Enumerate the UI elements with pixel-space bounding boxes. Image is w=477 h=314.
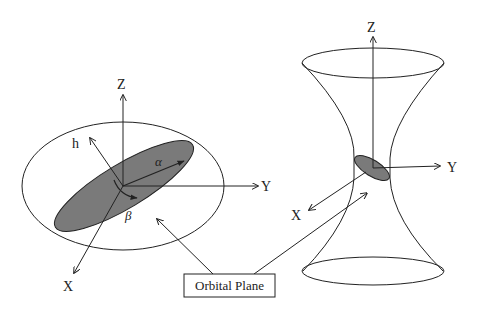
orbital-plane-diagram: Z Y X h α β Z Y X Orbital Plane xyxy=(0,0,477,314)
right-panel: Z Y X xyxy=(291,20,457,285)
z-axis-label: Z xyxy=(117,77,126,92)
callout-label: Orbital Plane xyxy=(195,278,264,293)
alpha-label: α xyxy=(155,154,163,169)
x-axis-right-label: X xyxy=(291,208,301,223)
orbital-plane-callout: Orbital Plane xyxy=(157,193,367,297)
left-panel: Z Y X h α β xyxy=(22,77,271,294)
x-axis-right xyxy=(309,172,366,210)
y-axis-label: Y xyxy=(261,179,271,194)
callout-pointer-left xyxy=(157,219,213,274)
callout-pointer-right xyxy=(254,193,367,274)
h-vector-label: h xyxy=(72,136,79,151)
hyperboloid-left-side xyxy=(302,63,354,271)
x-axis-label: X xyxy=(63,279,73,294)
y-axis-right-label: Y xyxy=(447,160,457,175)
z-axis-right-label: Z xyxy=(367,20,376,35)
hyperboloid-bottom-rim xyxy=(302,257,444,285)
beta-label: β xyxy=(124,208,132,223)
